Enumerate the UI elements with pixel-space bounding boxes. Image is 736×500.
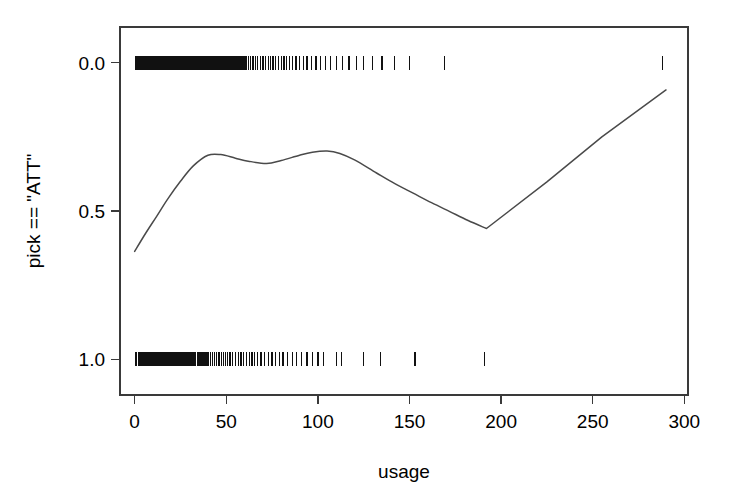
x-tick-label: 300	[668, 411, 700, 432]
x-tick-label: 250	[577, 411, 609, 432]
x-tick-label: 150	[394, 411, 426, 432]
y-axis-title: pick == "ATT"	[23, 154, 44, 269]
plot-panel-border	[120, 27, 688, 395]
y-tick-label: 0.5	[79, 201, 105, 222]
plot-figure: 1.00.50.0 050100150200250300 usage pick …	[0, 0, 736, 500]
y-tick-label: 1.0	[79, 349, 105, 370]
x-tick-label: 200	[485, 411, 517, 432]
rug-marks-top	[135, 56, 662, 70]
x-tick-label: 100	[302, 411, 334, 432]
x-tick-label: 0	[129, 411, 140, 432]
smoothed-fit-line	[135, 90, 666, 251]
rug-marks-bottom	[136, 352, 485, 366]
x-axis: 050100150200250300	[129, 395, 700, 432]
y-tick-label: 0.0	[79, 53, 105, 74]
y-axis: 1.00.50.0	[79, 53, 120, 371]
chart-canvas: 1.00.50.0 050100150200250300 usage pick …	[0, 0, 736, 500]
x-axis-title: usage	[378, 461, 430, 482]
x-tick-label: 50	[216, 411, 237, 432]
